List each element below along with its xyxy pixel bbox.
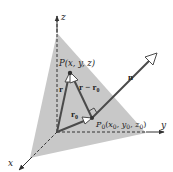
vector-n-label: n bbox=[128, 72, 133, 82]
x-axis-label: x bbox=[8, 158, 13, 168]
plane-normal-diagram: z y x P(x, y, z) P0(x0, y0, z0) n r r − … bbox=[0, 0, 173, 172]
vector-r-label: r bbox=[59, 84, 63, 94]
x-axis-solid-end bbox=[19, 157, 32, 170]
z-axis-label: z bbox=[60, 12, 66, 22]
point-P0 bbox=[90, 116, 94, 120]
point-P-label: P(x, y, z) bbox=[58, 58, 95, 68]
plane bbox=[30, 33, 146, 158]
point-P bbox=[68, 71, 72, 75]
y-axis-label: y bbox=[160, 120, 167, 130]
vector-r-minus-r0-label: r − r0 bbox=[79, 82, 99, 93]
